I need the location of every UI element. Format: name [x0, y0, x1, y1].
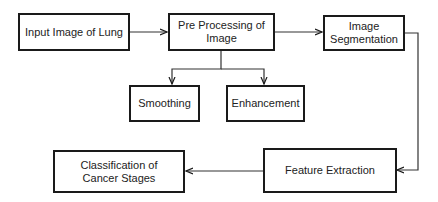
node-label: Feature Extraction — [285, 164, 375, 177]
node-label: Enhancement — [232, 97, 300, 110]
node-label: Pre Processing of Image — [174, 19, 269, 45]
node-classification-of-cancer-stages: Classification of Cancer Stages — [53, 150, 185, 193]
node-input-image-of-lung: Input Image of Lung — [18, 13, 130, 51]
node-feature-extraction: Feature Extraction — [263, 148, 397, 193]
node-label: Image Segmentation — [329, 20, 399, 46]
node-image-segmentation: Image Segmentation — [323, 15, 405, 51]
node-label: Classification of Cancer Stages — [69, 159, 169, 185]
node-label: Smoothing — [138, 97, 191, 110]
node-label: Input Image of Lung — [25, 26, 123, 39]
arrow-preprocessing-to-smoothing — [172, 51, 221, 84]
node-smoothing: Smoothing — [129, 85, 200, 122]
node-enhancement: Enhancement — [226, 85, 305, 122]
arrow-preprocessing-to-enhancement — [221, 69, 264, 84]
arrow-segmentation-to-feature — [397, 33, 418, 170]
node-pre-processing: Pre Processing of Image — [168, 13, 275, 51]
